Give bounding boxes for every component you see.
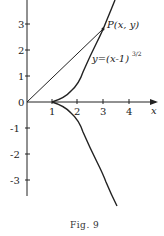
curve-upper-branch <box>52 0 115 102</box>
y-tick-label: -1 <box>10 123 20 134</box>
x-tick-label: 3 <box>100 106 106 117</box>
figure-canvas: 3 2 1 0 -1 -2 -3 1 2 3 4 x P(x, y) y=(x-… <box>0 0 164 236</box>
point-p-marker <box>102 28 105 31</box>
y-tick-label: -2 <box>10 149 20 160</box>
y-tick-label: -3 <box>10 175 20 186</box>
y-tick-label: 1 <box>18 71 24 82</box>
curve-label: y=(x-1) <box>91 53 129 64</box>
point-p-label: P(x, y) <box>106 19 139 30</box>
x-axis-label: x <box>151 105 157 116</box>
y-tick-label: 3 <box>18 19 24 30</box>
chord-op <box>27 29 103 102</box>
y-tick-label: 2 <box>18 45 24 56</box>
curve-lower-branch <box>52 102 117 206</box>
x-tick-label: 1 <box>49 106 55 117</box>
figure-caption: Fig. 9 <box>70 220 99 230</box>
y-tick-label: 0 <box>18 97 24 108</box>
x-tick-label: 4 <box>126 106 132 117</box>
curve-label-exponent: 3/2 <box>132 50 142 57</box>
x-tick-label: 2 <box>74 106 80 117</box>
